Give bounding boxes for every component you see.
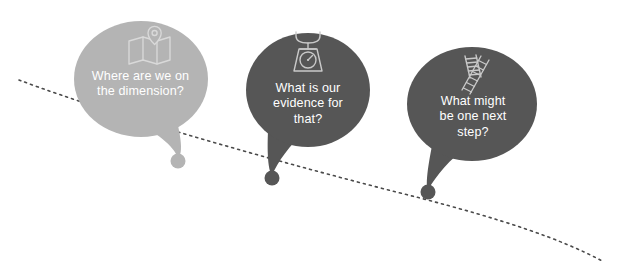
bubble-3-anchor-dot xyxy=(421,185,436,200)
diagram-scene xyxy=(0,0,627,274)
bubble-2-group[interactable] xyxy=(246,32,370,186)
bubble-2-body xyxy=(246,33,370,147)
diagram-canvas: Where are we on the dimension? What is o… xyxy=(0,0,627,274)
bubble-2-anchor-dot xyxy=(265,171,280,186)
bubble-3-body xyxy=(407,47,537,161)
bubble-1-anchor-dot xyxy=(171,154,186,169)
bubble-3-group[interactable] xyxy=(407,47,537,200)
bubble-1-body xyxy=(74,21,208,137)
bubble-1-group[interactable] xyxy=(74,21,208,169)
